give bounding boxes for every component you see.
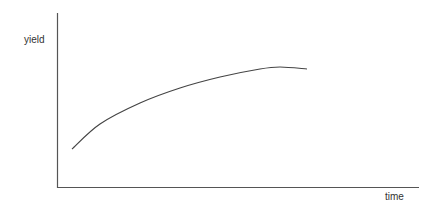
x-axis-label: time: [385, 191, 404, 202]
yield-curve: [72, 67, 307, 149]
line-chart: [0, 0, 428, 206]
y-axis-label: yield: [24, 34, 45, 45]
